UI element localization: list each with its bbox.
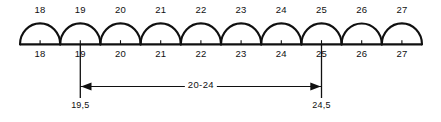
bin-top-label: 23 [236, 4, 247, 15]
bin-bottom-label: 21 [155, 48, 166, 59]
bin-top-label: 27 [396, 4, 407, 15]
bin-top-label: 25 [316, 4, 327, 15]
bin-bottom-label: 22 [195, 48, 206, 59]
left-boundary-label: 19,5 [71, 100, 89, 111]
bin-top-label: 21 [155, 4, 166, 15]
bin-bottom-label: 26 [356, 48, 367, 59]
bin-top-label: 19 [75, 4, 86, 15]
histogram-interval-figure: 1818191920202121222223232424252526262727… [0, 0, 441, 122]
bin-top-label: 22 [195, 4, 206, 15]
bin-top-label: 18 [35, 4, 46, 15]
range-label: 20-24 [185, 79, 217, 90]
right-boundary-label: 24,5 [312, 100, 330, 111]
bin-top-label: 24 [276, 4, 287, 15]
figure-canvas [0, 0, 441, 122]
bin-bottom-label: 20 [115, 48, 126, 59]
bin-bottom-label: 25 [316, 48, 327, 59]
bin-bottom-label: 27 [396, 48, 407, 59]
bin-top-label: 26 [356, 4, 367, 15]
left-arrowhead-icon [81, 83, 92, 91]
bin-bottom-label: 19 [75, 48, 86, 59]
bin-bottom-label: 18 [35, 48, 46, 59]
bin-bottom-label: 24 [276, 48, 287, 59]
right-arrowhead-icon [310, 83, 321, 91]
bin-bottom-label: 23 [236, 48, 247, 59]
bin-top-label: 20 [115, 4, 126, 15]
